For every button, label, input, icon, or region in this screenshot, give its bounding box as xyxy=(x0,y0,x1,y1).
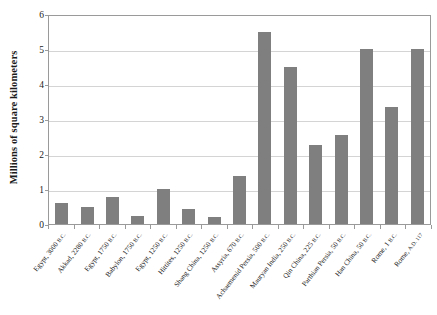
y-tick-label: 4 xyxy=(26,79,44,91)
bar-slot xyxy=(278,16,303,224)
bar-slot xyxy=(379,16,404,224)
bar[interactable] xyxy=(106,197,119,224)
bar[interactable] xyxy=(233,176,246,224)
x-tick-mark xyxy=(431,225,432,229)
bar[interactable] xyxy=(81,207,94,225)
bar[interactable] xyxy=(131,216,144,224)
bar-slot xyxy=(125,16,150,224)
bar-slot xyxy=(303,16,328,224)
bar[interactable] xyxy=(360,49,373,224)
bar[interactable] xyxy=(55,203,68,224)
bar[interactable] xyxy=(258,32,271,225)
bar[interactable] xyxy=(335,135,348,224)
bar-chart: Millions of square kilometers 0123456 Eg… xyxy=(0,0,437,315)
bar[interactable] xyxy=(284,67,297,225)
y-axis-title: Millions of square kilometers xyxy=(0,0,28,235)
y-tick-label: 3 xyxy=(26,114,44,126)
bar[interactable] xyxy=(182,209,195,224)
bar-slot xyxy=(354,16,379,224)
bar-slot xyxy=(227,16,252,224)
x-axis-label: Mauryan India, 250 B.C. xyxy=(248,231,297,290)
bar[interactable] xyxy=(208,217,221,224)
y-tick-label: 1 xyxy=(26,184,44,196)
bar[interactable] xyxy=(309,145,322,224)
bar-slot xyxy=(176,16,201,224)
bars-container xyxy=(49,16,430,224)
bar[interactable] xyxy=(157,189,170,224)
bar-slot xyxy=(151,16,176,224)
y-axis-tick-labels: 0123456 xyxy=(26,9,48,225)
x-axis-labels: Egypt, 3000 B.C.Akkad, 2280 B.C.Egypt, 1… xyxy=(48,229,431,315)
bar-slot xyxy=(405,16,430,224)
bar[interactable] xyxy=(411,49,424,224)
bar-slot xyxy=(49,16,74,224)
plot-area xyxy=(48,15,431,225)
y-tick-label: 5 xyxy=(26,44,44,56)
y-tick-label: 2 xyxy=(26,149,44,161)
bar-slot xyxy=(100,16,125,224)
bar-slot xyxy=(328,16,353,224)
bar-slot xyxy=(74,16,99,224)
y-tick-label: 0 xyxy=(26,219,44,231)
bar-slot xyxy=(201,16,226,224)
bar-slot xyxy=(252,16,277,224)
bar[interactable] xyxy=(385,107,398,224)
y-axis-title-text: Millions of square kilometers xyxy=(9,51,20,185)
y-tick-label: 6 xyxy=(26,9,44,21)
